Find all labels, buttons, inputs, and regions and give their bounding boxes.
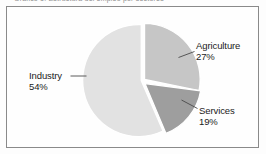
slice-label-agriculture-percent: 27% bbox=[196, 51, 240, 62]
pie-slice-agriculture[interactable] bbox=[145, 23, 201, 90]
slice-label-industry-name: Industry bbox=[29, 70, 62, 81]
slice-label-industry-percent: 54% bbox=[29, 81, 62, 92]
slice-label-services-name: Services bbox=[199, 105, 235, 116]
slice-label-industry: Industry 54% bbox=[29, 70, 62, 92]
pie-chart-screenshot: Gráfico 1. Estructura del empleo por sec… bbox=[0, 0, 266, 154]
slice-label-agriculture: Agriculture 27% bbox=[196, 40, 240, 62]
slice-label-agriculture-name: Agriculture bbox=[196, 40, 240, 51]
slice-label-services: Services 19% bbox=[199, 105, 235, 127]
slice-label-services-percent: 19% bbox=[199, 116, 235, 127]
